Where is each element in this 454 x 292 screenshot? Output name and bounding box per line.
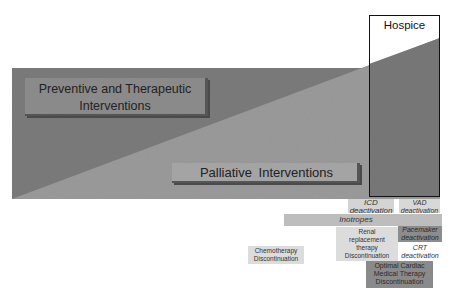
vad-line2: deactivation — [399, 207, 440, 215]
renal-line1: Renal — [336, 228, 398, 236]
preventive-label-line1: Preventive and Therapeutic — [25, 81, 205, 98]
crt-line1: CRT — [398, 244, 442, 252]
palliative-label-text: Palliative Interventions — [200, 165, 333, 180]
omt-discontinuation-box: Optimal Cardiac Medical Therapy Disconti… — [366, 261, 433, 288]
icd-line2: deactivation — [348, 207, 394, 215]
inotropes-box: Inotropes — [284, 214, 442, 226]
preventive-interventions-label: Preventive and Therapeutic Interventions — [25, 78, 208, 116]
palliative-interventions-label: Palliative Interventions — [172, 163, 360, 183]
omt-line2: Medical Therapy — [366, 270, 433, 278]
vad-deactivation-box: VAD deactivation — [399, 199, 440, 213]
vad-line1: VAD — [399, 199, 440, 207]
chemo-line1: Chemotherapy — [248, 247, 304, 255]
crt-deactivation-box: CRT deactivation — [398, 244, 442, 260]
omt-line3: Discontinuation — [366, 278, 433, 286]
pacemaker-deactivation-box: Pacemaker deactivation — [398, 226, 442, 242]
icd-deactivation-box: ICD deactivation — [348, 199, 394, 213]
preventive-label-line2: Interventions — [25, 98, 205, 115]
hospice-title: Hospice — [370, 19, 439, 31]
renal-line3: therapy — [336, 244, 398, 252]
crt-line2: deactivation — [398, 252, 442, 260]
omt-line1: Optimal Cardiac — [366, 262, 433, 270]
pacemaker-line2: deactivation — [398, 234, 442, 242]
renal-replacement-box: Renal replacement therapy Discontinuatio… — [336, 227, 398, 261]
renal-line4: Discontinuation — [336, 252, 398, 260]
chemotherapy-discontinuation-box: Chemotherapy Discontinuation — [248, 246, 304, 264]
renal-line2: replacement — [336, 236, 398, 244]
hospice-box: Hospice — [369, 15, 440, 197]
inotropes-label: Inotropes — [339, 215, 372, 224]
chemo-line2: Discontinuation — [248, 255, 304, 263]
pacemaker-line1: Pacemaker — [398, 226, 442, 234]
